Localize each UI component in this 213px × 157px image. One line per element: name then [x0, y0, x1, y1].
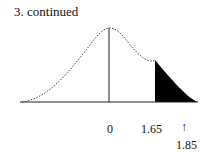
label-statistic: 1.85 — [176, 138, 197, 153]
shaded-tail — [155, 60, 197, 102]
label-zero: 0 — [107, 122, 113, 137]
bell-curve — [22, 28, 155, 102]
label-critical: 1.65 — [141, 122, 162, 137]
arrow-up-icon: ↑ — [181, 120, 187, 135]
